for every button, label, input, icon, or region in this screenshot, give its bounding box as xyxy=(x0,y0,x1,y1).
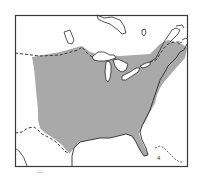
bahamas-mark: 4 xyxy=(157,155,161,161)
range-map: 4 xyxy=(0,0,202,188)
map-svg: 4 xyxy=(0,0,202,188)
hudson-bay xyxy=(64,15,146,44)
mexico-coast xyxy=(15,148,27,166)
caption-mark xyxy=(37,172,43,173)
